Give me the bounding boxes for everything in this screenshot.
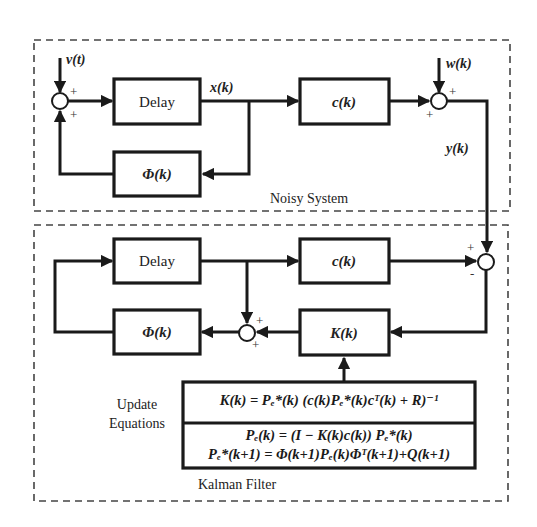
delay-block-filter: Delay xyxy=(114,239,200,283)
covariance-predict-equation: Pₑ*(k+1) = Φ(k+1)Pₑ(k)Φᵀ(k+1)+Q(k+1) xyxy=(208,446,450,463)
kalman-filter-group: Delay c(k) + - K(k) + + xyxy=(34,225,508,501)
covariance-update-equation: Pₑ(k) = (I − K(k)c(k)) Pₑ*(k) xyxy=(245,427,412,444)
phi-block-label: Φ(k) xyxy=(142,166,171,183)
k-gain-block-label: K(k) xyxy=(329,325,358,342)
yk-label: y(k) xyxy=(444,141,469,157)
delay-block-filter-label: Delay xyxy=(139,253,175,269)
sum2-sign-top: + xyxy=(449,84,456,99)
sum1-sign-top: + xyxy=(70,84,77,99)
noisy-system-label: Noisy System xyxy=(270,191,348,206)
error-sum-sign-top: + xyxy=(467,240,474,255)
vt-label: v(t) xyxy=(66,52,85,68)
phi-block-system: Φ(k) xyxy=(114,152,200,196)
sum2-sign-left: + xyxy=(426,107,433,122)
xk-label: x(k) xyxy=(209,80,233,96)
summing-junction-2 xyxy=(431,93,447,109)
yk-output-line xyxy=(447,101,487,252)
phi-block-filter-label: Φ(k) xyxy=(142,324,171,341)
delay-block-label: Delay xyxy=(139,94,175,110)
phi-to-delay-loop xyxy=(55,261,114,332)
summing-junction-1 xyxy=(52,93,68,109)
update-sum-sign-top: + xyxy=(256,313,263,328)
c-block-label: c(k) xyxy=(332,94,356,111)
c-block-filter-label: c(k) xyxy=(332,253,356,270)
delay-block-system: Delay xyxy=(114,79,200,124)
gain-equation: K(k) = Pₑ*(k) (c(k)Pₑ*(k)cᵀ(k) + R)⁻¹ xyxy=(219,392,439,409)
error-summing-junction xyxy=(478,254,494,270)
k-gain-block: K(k) xyxy=(300,310,389,355)
c-block-filter: c(k) xyxy=(300,239,389,283)
noisy-system-group: v(t) + + Delay x(k) Φ(k) c(k) xyxy=(34,40,510,252)
phi-to-sum1-arrow xyxy=(60,111,114,174)
update-equations-box: K(k) = Pₑ*(k) (c(k)Pₑ*(k)cᵀ(k) + R)⁻¹ Pₑ… xyxy=(183,382,475,468)
update-equations-label-line2: Equations xyxy=(109,416,165,431)
c-block-system: c(k) xyxy=(300,79,389,124)
wk-label: w(k) xyxy=(446,56,472,72)
update-sum-sign-bottom: + xyxy=(252,337,259,352)
error-sum-sign-bottom: - xyxy=(470,266,474,281)
xk-feedback-branch xyxy=(203,101,249,174)
sum1-sign-bottom: + xyxy=(70,107,77,122)
update-equations-label-line1: Update xyxy=(117,397,157,412)
kalman-filter-label: Kalman Filter xyxy=(198,477,276,492)
phi-block-filter: Φ(k) xyxy=(114,310,200,354)
